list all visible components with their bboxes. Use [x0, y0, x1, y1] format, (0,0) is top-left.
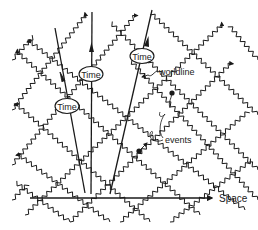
light-ray [228, 27, 258, 60]
time-label-3: Time [130, 49, 154, 64]
space-label: Space [219, 193, 248, 204]
diagram-canvas: Space Time Time Time worldline events [0, 0, 258, 230]
events-label: events [165, 135, 192, 145]
time-axis-2-arrow [89, 42, 94, 52]
svg-text:Time: Time [57, 102, 77, 112]
time-label-2: Time [79, 67, 103, 82]
light-ray [12, 16, 138, 166]
time-label-1: Time [55, 99, 79, 114]
light-ray [16, 154, 110, 222]
svg-text:Time: Time [132, 52, 152, 62]
light-ray-lattice [12, 13, 258, 222]
time-axis-2 [91, 12, 92, 194]
light-ray [12, 185, 29, 200]
light-ray [12, 13, 86, 110]
light-ray [131, 59, 258, 200]
svg-text:Time: Time [81, 70, 101, 80]
light-ray [112, 22, 258, 171]
worldline-label: worldline [158, 67, 195, 77]
spacetime-diagram: Space Time Time Time worldline events [0, 0, 258, 230]
light-ray [14, 104, 150, 222]
